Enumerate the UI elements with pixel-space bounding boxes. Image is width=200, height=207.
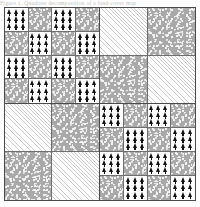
quad-cell-trees	[76, 79, 100, 103]
figure-caption: Figure 1. Quadtree decomposition of a la…	[0, 0, 200, 6]
quad-cell-trees	[148, 104, 172, 128]
quad-cell-stipple	[100, 56, 148, 104]
pine-tree-icon	[163, 119, 168, 126]
pine-tree-icon	[156, 153, 161, 160]
quad-cell-hatch	[148, 56, 196, 104]
pine-tree-icon	[109, 112, 114, 119]
quad-cell-stipple	[29, 8, 53, 32]
quad-cell-hatch	[52, 152, 99, 200]
pine-tree-icon	[156, 160, 161, 167]
pine-tree-icon	[188, 184, 193, 191]
pine-tree-icon	[156, 105, 161, 112]
pine-tree-icon	[163, 160, 168, 167]
quad-cell-stipple	[5, 32, 29, 56]
pine-tree-icon	[173, 192, 178, 199]
pine-tree-icon	[37, 80, 42, 87]
pine-tree-icon	[116, 167, 121, 174]
pine-tree-icon	[140, 143, 145, 150]
quad-cell-stipple	[148, 176, 172, 200]
pine-tree-icon	[92, 80, 97, 87]
tree-glyph-layer	[76, 32, 100, 55]
pine-tree-icon	[156, 112, 161, 119]
pine-tree-icon	[78, 88, 83, 95]
pine-tree-icon	[30, 80, 35, 87]
quad-cell-stipple	[52, 104, 99, 152]
pine-tree-icon	[44, 47, 49, 54]
pine-tree-icon	[14, 16, 19, 23]
quadrant-top-left	[5, 8, 100, 104]
quad-cell-stipple	[171, 104, 195, 128]
pine-tree-icon	[102, 105, 107, 112]
pine-tree-icon	[140, 192, 145, 199]
quad-cell-hatch	[100, 8, 148, 56]
pine-tree-icon	[133, 177, 138, 184]
pine-tree-icon	[173, 143, 178, 150]
pine-tree-icon	[133, 184, 138, 191]
pine-tree-icon	[21, 23, 26, 30]
pine-tree-icon	[61, 57, 66, 64]
pine-tree-icon	[7, 9, 12, 16]
pine-tree-icon	[21, 9, 26, 16]
quadrant-top-right	[100, 8, 195, 104]
pine-tree-icon	[30, 47, 35, 54]
pine-tree-icon	[173, 129, 178, 136]
pine-tree-icon	[68, 23, 73, 30]
pine-tree-icon	[21, 71, 26, 78]
pine-tree-icon	[44, 80, 49, 87]
pine-tree-icon	[181, 129, 186, 136]
pine-tree-icon	[149, 153, 154, 160]
quad-cell-trees	[29, 79, 53, 103]
pine-tree-icon	[116, 105, 121, 112]
pine-tree-icon	[44, 40, 49, 47]
quad-cell-trees	[124, 176, 148, 200]
pine-tree-icon	[54, 57, 59, 64]
pine-tree-icon	[181, 192, 186, 199]
tree-glyph-layer	[100, 152, 123, 175]
pine-tree-icon	[92, 40, 97, 47]
quad-cell-stipple	[52, 79, 76, 103]
pine-tree-icon	[133, 136, 138, 143]
pine-tree-icon	[14, 71, 19, 78]
pine-tree-icon	[14, 57, 19, 64]
pine-tree-icon	[102, 160, 107, 167]
quad-cell-stipple	[148, 8, 196, 56]
pine-tree-icon	[44, 33, 49, 40]
quad-cell-trees	[76, 32, 100, 56]
pine-tree-icon	[181, 136, 186, 143]
tree-glyph-layer	[148, 152, 171, 175]
tree-glyph-layer	[124, 176, 147, 200]
pine-tree-icon	[14, 64, 19, 71]
pine-tree-icon	[68, 9, 73, 16]
pine-tree-icon	[92, 33, 97, 40]
pine-tree-icon	[37, 88, 42, 95]
pine-tree-icon	[109, 119, 114, 126]
quad-cell-stipple	[76, 8, 100, 32]
pine-tree-icon	[78, 95, 83, 102]
pine-tree-icon	[37, 40, 42, 47]
pine-tree-icon	[85, 80, 90, 87]
pine-tree-icon	[30, 33, 35, 40]
pine-tree-icon	[126, 192, 131, 199]
quad-cell-stipple	[148, 128, 172, 152]
quad-cell-stipple	[100, 176, 124, 200]
pine-tree-icon	[156, 167, 161, 174]
quadrant-bottom-left	[5, 104, 100, 200]
pine-tree-icon	[181, 184, 186, 191]
pine-tree-icon	[188, 136, 193, 143]
pine-tree-icon	[37, 95, 42, 102]
quad-cell-stipple	[76, 56, 100, 80]
pine-tree-icon	[85, 33, 90, 40]
quad-cell-trees	[100, 152, 124, 176]
tree-glyph-layer	[148, 104, 171, 127]
quad-cell-trees	[5, 8, 29, 32]
pine-tree-icon	[133, 143, 138, 150]
pine-tree-icon	[102, 112, 107, 119]
pine-tree-icon	[126, 129, 131, 136]
pine-tree-icon	[14, 23, 19, 30]
tree-glyph-layer	[171, 128, 195, 151]
quad-cell-stipple	[5, 152, 52, 200]
pine-tree-icon	[126, 177, 131, 184]
tree-glyph-layer	[52, 56, 75, 79]
tree-glyph-layer	[124, 128, 147, 151]
pine-tree-icon	[116, 160, 121, 167]
